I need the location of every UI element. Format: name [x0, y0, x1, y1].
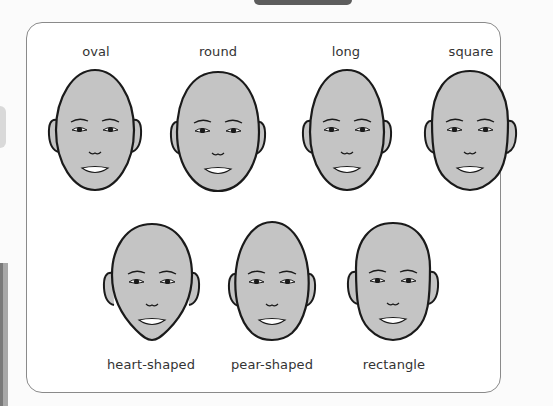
face-pear-shaped [229, 222, 315, 340]
face-oval [49, 70, 141, 190]
face-heart-shaped [104, 224, 199, 340]
face-round [171, 72, 265, 191]
face-long [303, 70, 391, 190]
face-square [425, 71, 516, 190]
face-rectangle [348, 223, 438, 340]
faces-illustration [0, 0, 553, 406]
